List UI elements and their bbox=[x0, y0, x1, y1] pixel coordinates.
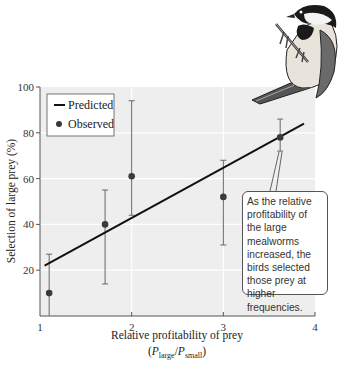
y-tick-label: 40 bbox=[23, 218, 35, 230]
y-tick-label: 20 bbox=[23, 264, 35, 276]
annotation-callout: As the relative profitability of the lar… bbox=[242, 191, 328, 295]
x-sub-large: large bbox=[159, 351, 175, 360]
x-sub-p2: P bbox=[177, 345, 185, 357]
observed-point bbox=[102, 221, 109, 228]
x-sub-p1: P bbox=[151, 345, 159, 357]
y-tick-label: 100 bbox=[18, 81, 35, 93]
observed-point bbox=[277, 134, 284, 141]
x-tick-label: 4 bbox=[312, 321, 318, 333]
x-axis-title: Relative profitability of prey bbox=[111, 329, 243, 342]
legend-dot-icon bbox=[56, 121, 62, 127]
x-axis-subtitle: (Plarge/Psmall) bbox=[148, 345, 206, 360]
legend-observed-label: Observed bbox=[68, 117, 114, 131]
observed-point bbox=[128, 173, 135, 180]
observed-point bbox=[220, 194, 227, 201]
chickadee-bird-icon bbox=[232, 0, 356, 112]
x-tick-label: 1 bbox=[37, 321, 43, 333]
legend: Predicted Observed bbox=[47, 94, 114, 136]
legend-predicted-label: Predicted bbox=[68, 98, 113, 112]
x-sub-small: small bbox=[185, 351, 203, 360]
y-tick-label: 80 bbox=[23, 127, 35, 139]
y-ticks: 20406080100 bbox=[18, 81, 41, 276]
y-axis-title: Selection of large prey (%) bbox=[5, 139, 18, 263]
y-tick-label: 60 bbox=[23, 173, 35, 185]
observed-point bbox=[46, 290, 53, 297]
